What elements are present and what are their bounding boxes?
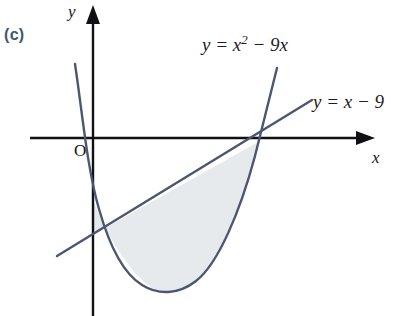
parabola-label-tail: − 9x bbox=[248, 34, 288, 55]
origin-label: O bbox=[74, 141, 86, 161]
math-figure: (c) y = x2 − 9x y = x − 9 y x O bbox=[0, 0, 398, 316]
part-label: (c) bbox=[4, 26, 24, 44]
y-axis-arrowhead bbox=[86, 5, 100, 24]
shaded-region bbox=[93, 142, 258, 292]
line-equation-label: y = x − 9 bbox=[313, 91, 384, 113]
y-axis-label: y bbox=[68, 2, 76, 22]
parabola-label-lead: y = x bbox=[202, 34, 241, 55]
parabola-equation-label: y = x2 − 9x bbox=[202, 32, 288, 56]
x-axis-label: x bbox=[372, 148, 380, 168]
x-axis-arrowhead bbox=[356, 131, 375, 145]
graph-canvas bbox=[0, 0, 398, 316]
